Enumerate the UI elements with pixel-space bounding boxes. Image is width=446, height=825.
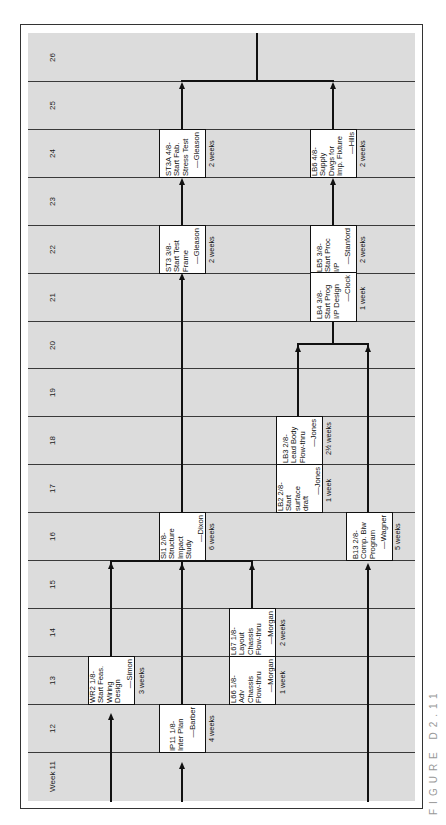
arrow-head-icon (179, 178, 185, 185)
arrow-head-icon (365, 345, 371, 352)
task-box-lb6[interactable]: LB6 4/8- Supply Dwgs for Imp. Fixture—Hi… (310, 129, 357, 178)
task-box-b13[interactable]: B13 2/8- Comp. Biw Program—Wagner (346, 512, 393, 561)
task-box-st3a[interactable]: ST3A 4/8- Start Fab. Stress Test—Gleason (159, 129, 206, 178)
task-owner: —Gleason (192, 228, 200, 272)
connector-line (181, 181, 183, 226)
task-title: LB4 3/8- Start Prog I/P Design (315, 275, 340, 319)
week-label: 22 (28, 225, 76, 273)
week-label: 25 (28, 81, 76, 129)
arrow-head-icon (108, 713, 114, 720)
grid-line (28, 368, 415, 369)
task-box-st3[interactable]: ST3 3/8- Start Test Frame—Gleason (159, 225, 206, 274)
task-duration: 1 week (324, 479, 333, 502)
week-label: 12 (28, 704, 76, 752)
connector-line (181, 84, 183, 130)
task-box-ip11[interactable]: IP11 1/8- Inter Plan—Barber (159, 704, 206, 753)
task-box-lb2[interactable]: LB2 2/8- Start surface draft—Jones (276, 464, 323, 513)
arrow-head-icon (365, 563, 371, 570)
task-title: SI1 2/8- Structure Impact Study (160, 515, 194, 559)
task-owner: —Clock (343, 275, 351, 319)
task-title: ST3A 4/8- Start Fab. Stress Test (164, 132, 189, 176)
task-duration: 4 weeks (207, 715, 216, 742)
task-title: IP11 1/8- Inter Plan (168, 707, 185, 751)
task-owner: —Stanford (343, 228, 351, 272)
connector-line (181, 562, 183, 705)
figure-caption: FIGURE D2.11 (428, 689, 439, 816)
connector-line (332, 84, 334, 130)
task-title: LB3 2/8- Lead Body Flow-thru (281, 419, 306, 463)
task-title: LB2 2/8- Start surface draft (277, 467, 311, 511)
task-box-wr2[interactable]: WR2 1/8- Start Feas. Wiring Design—Simon (88, 656, 135, 705)
connector-line (110, 562, 112, 657)
week-label: 20 (28, 321, 76, 369)
grid-line (28, 752, 415, 753)
task-duration: 2 weeks (207, 236, 216, 263)
week-label: Week 11 (28, 752, 76, 800)
grid-line (28, 704, 415, 705)
connector-line (110, 720, 112, 802)
task-duration: 2 weeks (278, 619, 287, 646)
week-label: 21 (28, 273, 76, 321)
task-box-si1[interactable]: SI1 2/8- Structure Impact Study—Dixon (159, 512, 206, 561)
task-box-l66[interactable]: L66 1/8- Adv Chassis Flow-thru—Morgan (229, 656, 276, 705)
grid-line (28, 464, 415, 465)
task-duration: 2 weeks (207, 140, 216, 167)
connector-line (332, 321, 334, 344)
connector-line (181, 768, 183, 802)
grid-line (28, 656, 415, 657)
task-owner: —Barber (188, 707, 196, 751)
grid-line (28, 608, 415, 609)
task-owner: —Morgan (267, 611, 275, 655)
arrow-head-icon (179, 762, 185, 769)
task-owner: —Dixon (197, 515, 205, 559)
week-label: 14 (28, 608, 76, 656)
task-duration: 6 weeks (207, 523, 216, 550)
task-owner: —Morgan (267, 659, 275, 703)
task-duration: 2 weeks (358, 236, 367, 263)
arrow-head-icon (179, 82, 185, 89)
arrow-head-icon (179, 563, 185, 570)
week-label: 18 (28, 416, 76, 464)
arrow-head-icon (179, 273, 185, 280)
connector-line (181, 278, 183, 513)
task-owner: —Jones (314, 467, 322, 511)
task-duration: 1 week (358, 287, 367, 310)
connector-line (367, 345, 369, 513)
week-label: 13 (28, 656, 76, 704)
week-label: 23 (28, 177, 76, 225)
arrow-head-icon (295, 345, 301, 352)
task-title: L67 1/8- Layout Chassis Flow-thru (230, 611, 264, 655)
week-label: 17 (28, 464, 76, 512)
task-box-lb5[interactable]: LB5 3/8- Start Proc I/P—Stanford (310, 225, 357, 274)
task-duration: 2 weeks (358, 140, 367, 167)
week-label: 16 (28, 512, 76, 560)
task-box-lb3[interactable]: LB3 2/8- Lead Body Flow-thru—Jones (276, 416, 323, 465)
grid-line (28, 416, 415, 417)
task-owner: —Wagner (379, 515, 387, 559)
connector-line (332, 181, 334, 226)
task-title: L66 1/8- Adv Chassis Flow-thru (230, 659, 264, 703)
arrow-head-icon (330, 178, 336, 185)
arrow-head-icon (249, 563, 255, 570)
connector-line (367, 568, 369, 802)
task-title: LB6 4/8- Supply Dwgs for Imp. Fixture (311, 132, 345, 176)
task-owner: —Simon (126, 659, 134, 703)
connector-line (297, 345, 299, 417)
task-duration: 2½ weeks (324, 422, 333, 455)
task-box-l67[interactable]: L67 1/8- Layout Chassis Flow-thru—Morgan (229, 608, 276, 657)
task-title: WR2 1/8- Start Feas. Wiring Design (89, 659, 123, 703)
arrow-head-icon (330, 82, 336, 89)
task-duration: 5 weeks (393, 523, 402, 550)
task-owner: —Gleason (192, 132, 200, 176)
task-duration: 1 week (278, 671, 287, 694)
task-title: B13 2/8- Comp. Biw Program (351, 515, 376, 559)
task-box-lb4[interactable]: LB4 3/8- Start Prog I/P Design—Clock (310, 272, 357, 322)
week-label: 26 (28, 33, 76, 81)
task-owner: —Hills (348, 132, 356, 176)
week-label: 24 (28, 129, 76, 177)
week-label: 19 (28, 368, 76, 416)
connector-line (256, 33, 258, 81)
task-owner: —Jones (309, 419, 317, 463)
arrow-head-icon (108, 562, 114, 569)
week-label: 15 (28, 560, 76, 608)
